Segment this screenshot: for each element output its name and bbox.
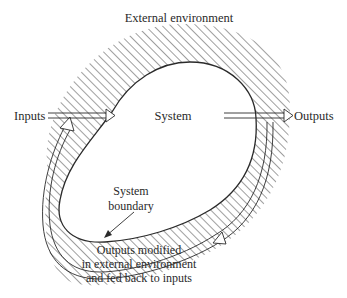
system-environment-diagram: External environment System Inputs Outpu…	[0, 0, 347, 298]
inputs-label: Inputs	[14, 109, 45, 123]
system-label: System	[155, 109, 192, 123]
feedback-label-line3: and fed back to inputs	[86, 271, 192, 285]
feedback-label-line1: Outputs modified	[97, 243, 181, 257]
feedback-label-line2: in external environment	[82, 257, 197, 271]
external-environment-label: External environment	[125, 11, 234, 25]
boundary-label-line1: System	[113, 184, 149, 198]
outputs-label: Outputs	[294, 109, 334, 123]
boundary-label-line2: boundary	[108, 199, 153, 213]
